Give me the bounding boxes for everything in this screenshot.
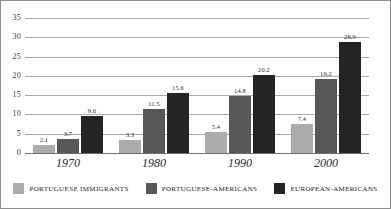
bar — [33, 145, 55, 153]
legend-item: EUROPEAN-AMERICANS — [274, 183, 377, 194]
bar-column: 3.7 — [57, 18, 79, 153]
bar — [143, 109, 165, 153]
y-axis-tick-label: 5 — [17, 129, 21, 138]
bar-column: 14.8 — [229, 18, 251, 153]
legend-swatch-icon — [146, 183, 157, 194]
bar-group: 5.414.820.2 — [197, 18, 283, 153]
bar-value-label: 20.2 — [258, 66, 270, 73]
legend-swatch-icon — [13, 183, 24, 194]
x-axis-line — [25, 153, 369, 154]
y-axis-tick-label: 0 — [17, 148, 21, 157]
bar — [229, 96, 251, 153]
legend-label: PORTUGUESE IMMIGRANTS — [29, 185, 128, 193]
y-axis-tick-label: 15 — [13, 90, 21, 99]
bar-value-label: 5.4 — [212, 123, 220, 130]
bar — [291, 124, 313, 153]
y-axis-tick-label: 30 — [13, 33, 21, 42]
bar-column: 19.2 — [315, 18, 337, 153]
bar-group: 7.419.228.9 — [283, 18, 369, 153]
bar — [253, 75, 275, 153]
y-axis-tick-label: 35 — [13, 13, 21, 22]
bar-value-label: 3.7 — [64, 130, 72, 137]
bar-column: 5.4 — [205, 18, 227, 153]
legend-swatch-icon — [274, 183, 285, 194]
bar-value-label: 14.8 — [234, 87, 246, 94]
x-axis-tick-label: 2000 — [314, 156, 338, 171]
x-axis-tick-labels: 1970198019902000 — [25, 156, 369, 176]
y-axis-tick-label: 25 — [13, 52, 21, 61]
bar-column: 9.6 — [81, 18, 103, 153]
bar-value-label: 11.5 — [148, 100, 160, 107]
bar-value-label: 2.1 — [40, 136, 48, 143]
bar — [315, 79, 337, 153]
chart-legend: PORTUGUESE IMMIGRANTSPORTUGUESE-AMERICAN… — [1, 183, 390, 194]
y-axis-tick-label: 20 — [13, 71, 21, 80]
bar-column: 28.9 — [339, 18, 361, 153]
bar-column: 15.6 — [167, 18, 189, 153]
y-axis-tick-label: 10 — [13, 110, 21, 119]
plot-area: 051015202530352.13.79.63.311.515.65.414.… — [25, 18, 369, 153]
bar-value-label: 3.3 — [126, 131, 134, 138]
bar-value-label: 9.6 — [88, 107, 96, 114]
bar-group: 2.13.79.6 — [25, 18, 111, 153]
bar-column: 3.3 — [119, 18, 141, 153]
x-axis-tick-label: 1970 — [56, 156, 80, 171]
x-axis-tick-label: 1990 — [228, 156, 252, 171]
legend-label: PORTUGUESE-AMERICANS — [162, 185, 258, 193]
bar-value-label: 15.6 — [172, 84, 184, 91]
bar-group: 3.311.515.6 — [111, 18, 197, 153]
bar-column: 11.5 — [143, 18, 165, 153]
bar — [339, 42, 361, 153]
bar-value-label: 19.2 — [320, 70, 332, 77]
bar-column: 2.1 — [33, 18, 55, 153]
bar — [119, 140, 141, 153]
legend-label: EUROPEAN-AMERICANS — [290, 185, 377, 193]
bar-value-label: 28.9 — [344, 33, 356, 40]
bar-chart-figure: 051015202530352.13.79.63.311.515.65.414.… — [0, 0, 391, 209]
bar-value-label: 7.4 — [298, 115, 306, 122]
x-axis-tick-label: 1980 — [142, 156, 166, 171]
bar — [57, 139, 79, 153]
bar-column: 7.4 — [291, 18, 313, 153]
bar — [81, 116, 103, 153]
bar — [167, 93, 189, 153]
bar — [205, 132, 227, 153]
bar-column: 20.2 — [253, 18, 275, 153]
legend-item: PORTUGUESE IMMIGRANTS — [13, 183, 128, 194]
legend-item: PORTUGUESE-AMERICANS — [146, 183, 258, 194]
